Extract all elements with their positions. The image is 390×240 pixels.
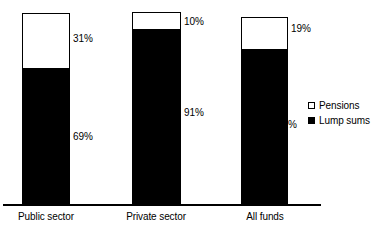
bar-segment-pensions [132, 12, 181, 30]
chart-legend: Pensions Lump sums [308, 100, 388, 128]
bar-segment-lump-sums [22, 69, 70, 205]
filled-square-icon [308, 117, 315, 124]
bar-segment-pensions [22, 13, 70, 69]
bar-all-funds [241, 17, 288, 205]
value-label-public-pensions: 31% [73, 33, 93, 44]
bar-private-sector [132, 12, 181, 205]
value-label-public-lump-sums: 69% [73, 131, 93, 142]
value-label-all-lump-sums: 81% [277, 119, 297, 130]
category-label-all-funds: All funds [233, 211, 297, 223]
legend-item-lump-sums: Lump sums [308, 115, 370, 126]
value-label-private-pensions: 10% [184, 16, 204, 27]
bar-public-sector [22, 13, 70, 205]
bar-segment-pensions [241, 17, 288, 50]
bar-segment-lump-sums [132, 30, 181, 205]
category-label-public-sector: Public sector [10, 211, 82, 223]
stacked-column-chart: 31% 69% 10% 91% 19% 81% Public sector Pr… [0, 0, 390, 240]
legend-label-lump-sums: Lump sums [319, 115, 370, 126]
value-label-all-pensions: 19% [291, 23, 311, 34]
category-label-private-sector: Private sector [120, 211, 192, 223]
legend-item-pensions: Pensions [308, 100, 359, 111]
category-axis-line [3, 204, 321, 206]
legend-label-pensions: Pensions [319, 100, 359, 111]
value-label-private-lump-sums: 91% [184, 107, 204, 118]
hollow-square-icon [308, 102, 315, 109]
